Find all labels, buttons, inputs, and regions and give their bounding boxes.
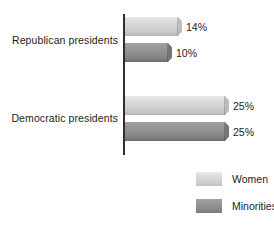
- value-label-democratic-women: 25%: [233, 100, 254, 112]
- bar-bevel-cap: [225, 96, 229, 115]
- bar-bevel-cap: [225, 122, 229, 141]
- category-label-republican: Republican presidents: [12, 34, 118, 46]
- legend-item-minorities: Minorities: [196, 199, 274, 213]
- legend-swatch-women: [196, 172, 222, 186]
- bar-chart: Republican presidents Democratic preside…: [0, 0, 274, 228]
- legend-item-women: Women: [196, 172, 268, 186]
- bar-democratic-minorities: [125, 122, 225, 141]
- bar-body: [125, 122, 225, 141]
- value-label-republican-women: 14%: [186, 21, 207, 33]
- bar-republican-minorities: [125, 43, 168, 62]
- legend-swatch-minorities: [196, 199, 222, 213]
- bar-body: [125, 17, 178, 36]
- bar-body: [125, 43, 168, 62]
- category-label-democratic: Democratic presidents: [11, 112, 118, 124]
- legend-label-women: Women: [232, 173, 268, 185]
- value-label-democratic-minorities: 25%: [233, 126, 254, 138]
- bar-body: [125, 96, 225, 115]
- bar-democratic-women: [125, 96, 225, 115]
- bar-bevel-cap: [178, 17, 182, 36]
- bar-republican-women: [125, 17, 178, 36]
- bar-bevel-cap: [168, 43, 172, 62]
- legend-label-minorities: Minorities: [232, 200, 274, 212]
- value-label-republican-minorities: 10%: [176, 47, 197, 59]
